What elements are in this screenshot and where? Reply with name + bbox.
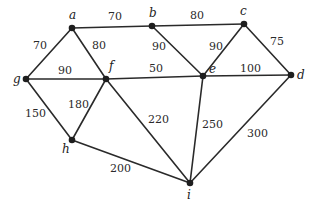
- node-g: [23, 76, 30, 83]
- edge-weight-a-b: 70: [108, 10, 122, 23]
- node-label-f: f: [108, 59, 116, 73]
- edge-weight-f-e: 50: [149, 62, 163, 75]
- edge-weight-h-i: 200: [110, 162, 131, 175]
- edge-weight-e-d: 100: [240, 62, 261, 75]
- edge-a-f: [72, 28, 106, 79]
- node-a: [69, 25, 76, 32]
- node-label-a: a: [69, 8, 76, 22]
- edge-f-e: [106, 76, 203, 79]
- node-label-i: i: [187, 188, 191, 202]
- node-label-b: b: [149, 6, 157, 20]
- edge-weight-a-f: 80: [92, 39, 106, 52]
- edge-weight-g-h: 150: [25, 107, 46, 120]
- edge-a-b: [72, 26, 152, 28]
- edge-weight-d-i: 300: [247, 127, 268, 140]
- edge-weight-c-e: 90: [209, 40, 223, 53]
- edge-e-d: [203, 75, 291, 76]
- node-i: [187, 180, 194, 187]
- node-label-h: h: [62, 142, 70, 156]
- node-b: [149, 23, 156, 30]
- edge-weight-f-i: 220: [148, 113, 169, 126]
- edge-weight-g-f: 90: [58, 64, 72, 77]
- edge-weight-f-h: 180: [68, 98, 89, 111]
- node-label-e: e: [209, 62, 216, 76]
- edge-weight-b-e: 90: [152, 40, 166, 53]
- node-label-g: g: [13, 72, 21, 86]
- edge-weight-c-d: 75: [270, 35, 284, 48]
- edge-weight-a-g: 70: [33, 39, 47, 52]
- node-label-d: d: [297, 68, 305, 82]
- node-d: [288, 72, 295, 79]
- node-e: [200, 73, 207, 80]
- node-c: [241, 21, 248, 28]
- edge-weight-e-i: 250: [202, 118, 223, 131]
- edge-b-c: [152, 24, 244, 26]
- graph-diagram: 708070809090759050100150180220250300200 …: [0, 0, 317, 207]
- node-f: [103, 76, 110, 83]
- edge-weight-b-c: 80: [190, 9, 204, 22]
- node-label-c: c: [240, 4, 247, 18]
